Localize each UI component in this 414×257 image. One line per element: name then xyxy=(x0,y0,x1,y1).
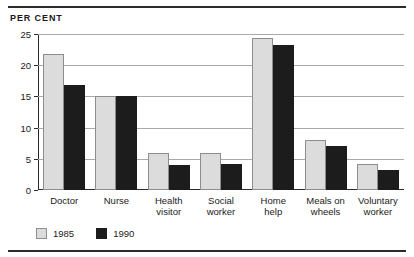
legend-swatch-icon xyxy=(36,228,47,239)
y-axis-tick xyxy=(34,159,38,160)
bar-group xyxy=(200,34,242,190)
bar-chart-figure: PER CENT 0510152025DoctorNurseHealthvisi… xyxy=(0,0,414,257)
x-axis-tick-label-line: Home xyxy=(247,195,299,206)
y-axis-tick xyxy=(34,34,38,35)
y-axis-tick-label: 20 xyxy=(20,60,31,71)
x-axis-tick-label-line: Health xyxy=(143,195,195,206)
bar-1990-home-help xyxy=(273,45,294,190)
bar-1990-voluntary-worker xyxy=(378,170,399,190)
bar-1985-social-worker xyxy=(200,153,221,190)
x-axis-tick-label-line: Social xyxy=(195,195,247,206)
x-axis-tick-label-line: visitor xyxy=(143,206,195,217)
bar-group xyxy=(357,34,399,190)
bar-1985-nurse xyxy=(95,96,116,190)
bottom-divider-rule xyxy=(8,250,406,252)
x-axis-tick-label: Socialworker xyxy=(195,195,247,217)
y-axis-tick xyxy=(34,128,38,129)
bar-1990-meals-on-wheels xyxy=(326,146,347,190)
x-axis-tick-label-line: Nurse xyxy=(90,195,142,206)
x-axis-tick-label-line: wheels xyxy=(299,206,351,217)
x-axis-tick-label-line: Doctor xyxy=(38,195,90,206)
bar-1985-home-help xyxy=(252,38,273,190)
y-axis-tick xyxy=(34,190,38,191)
y-axis-tick-label: 5 xyxy=(26,153,31,164)
bar-1990-social-worker xyxy=(221,164,242,190)
legend-label: 1985 xyxy=(53,228,74,239)
bar-1990-nurse xyxy=(116,96,137,190)
y-axis-unit-label: PER CENT xyxy=(10,13,63,23)
legend-entry-1985: 1985 xyxy=(36,228,74,239)
bar-group xyxy=(252,34,294,190)
y-axis-tick-label: 25 xyxy=(20,29,31,40)
legend-label: 1990 xyxy=(113,228,134,239)
top-divider-rule xyxy=(8,6,406,8)
plot-area: 0510152025DoctorNurseHealthvisitorSocial… xyxy=(38,34,404,190)
y-axis-tick xyxy=(34,65,38,66)
legend-entry-1990: 1990 xyxy=(96,228,134,239)
y-axis-tick-label: 10 xyxy=(20,122,31,133)
bar-1985-meals-on-wheels xyxy=(305,140,326,190)
x-axis-tick-label: Nurse xyxy=(90,195,142,206)
y-axis-tick-label: 15 xyxy=(20,91,31,102)
y-axis-tick-label: 0 xyxy=(26,185,31,196)
bar-1985-doctor xyxy=(43,54,64,190)
x-axis-tick-label: Voluntaryworker xyxy=(352,195,404,217)
x-axis-tick-label: Homehelp xyxy=(247,195,299,217)
bar-1990-health-visitor xyxy=(169,165,190,190)
x-axis-tick-label-line: Meals on xyxy=(299,195,351,206)
x-axis-tick-label-line: worker xyxy=(352,206,404,217)
x-axis-tick-label-line: Voluntary xyxy=(352,195,404,206)
x-axis-tick-label-line: worker xyxy=(195,206,247,217)
x-axis-tick-label: Healthvisitor xyxy=(143,195,195,217)
bar-1985-voluntary-worker xyxy=(357,164,378,190)
x-axis-tick-label: Doctor xyxy=(38,195,90,206)
bar-group xyxy=(305,34,347,190)
bar-group xyxy=(148,34,190,190)
bar-1990-doctor xyxy=(64,85,85,190)
x-axis-tick-label-line: help xyxy=(247,206,299,217)
bar-group xyxy=(43,34,85,190)
bar-1985-health-visitor xyxy=(148,153,169,190)
y-axis-tick xyxy=(34,96,38,97)
chart-legend: 19851990 xyxy=(36,228,134,239)
legend-swatch-icon xyxy=(96,228,107,239)
x-axis-tick-label: Meals onwheels xyxy=(299,195,351,217)
bar-group xyxy=(95,34,137,190)
